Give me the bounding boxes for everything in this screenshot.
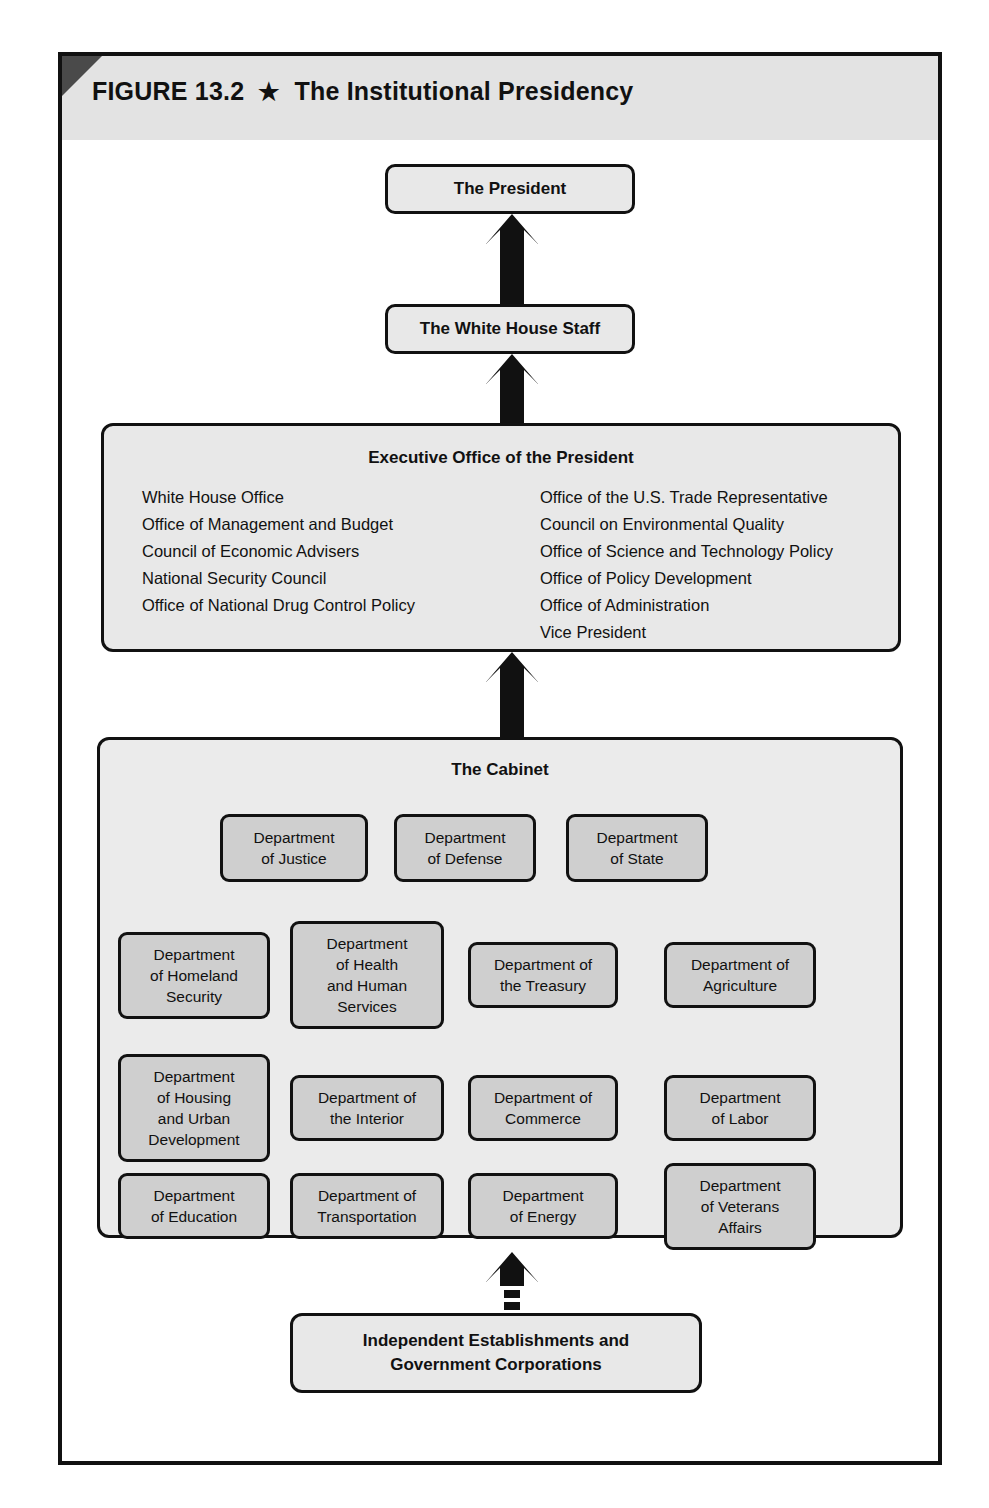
cabinet-department-label-line: of Health [327,954,408,975]
cabinet-department-label-line: Department [327,933,408,954]
figure-title-banner: FIGURE 13.2★The Institutional Presidency [62,56,938,140]
cabinet-department-label-line: Department [503,1185,584,1206]
cabinet-department-box: Departmentof Justice [220,814,368,882]
star-icon: ★ [258,78,280,105]
cabinet-department-label-line: of Housing [148,1087,239,1108]
cabinet-department-label-line: Affairs [700,1217,781,1238]
cabinet-department-box: Department ofAgriculture [664,942,816,1008]
cabinet-department-box: Department ofTransportation [290,1173,444,1239]
panel-the-cabinet: The Cabinet Departmentof JusticeDepartme… [97,737,903,1238]
cabinet-department-label-line: Department of [494,1087,592,1108]
node-independent-establishments: Independent Establishments and Governmen… [290,1313,702,1393]
cabinet-department-label-line: of Labor [700,1108,781,1129]
cabinet-department-label-line: of Education [151,1206,237,1227]
arrow-cabinet-to-eop [486,652,538,738]
cabinet-department-label-line: Transportation [317,1206,416,1227]
cabinet-department-label-line: Department of [317,1185,416,1206]
eop-item: White House Office [142,484,415,511]
cabinet-department-label-line: Department [148,1066,239,1087]
cabinet-department-box: Departmentof Labor [664,1075,816,1141]
eop-item: Council on Environmental Quality [540,511,833,538]
cabinet-department-label-line: the Treasury [494,975,592,996]
cabinet-department-box: Department ofthe Interior [290,1075,444,1141]
figure-title-text: The Institutional Presidency [294,77,633,105]
cabinet-department-box: Departmentof Education [118,1173,270,1239]
cabinet-department-label-line: Department [425,827,506,848]
cabinet-department-label-line: Department [254,827,335,848]
eop-item: Office of Management and Budget [142,511,415,538]
eop-item: Office of Science and Technology Policy [540,538,833,565]
node-independent-line-1: Independent Establishments and [363,1329,629,1353]
eop-item: Vice President [540,619,833,646]
arrow-white-house-staff-to-president [486,214,538,304]
cabinet-department-box: Departmentof Housingand UrbanDevelopment [118,1054,270,1162]
arrow-eop-to-white-house-staff [486,354,538,424]
cabinet-department-box: Department ofCommerce [468,1075,618,1141]
eop-item: Office of Administration [540,592,833,619]
cabinet-department-box: Departmentof VeteransAffairs [664,1163,816,1250]
figure-number: FIGURE 13.2 [92,77,244,105]
cabinet-department-label-line: of Justice [254,848,335,869]
cabinet-title: The Cabinet [100,760,900,780]
node-white-house-staff-label: The White House Staff [420,319,600,339]
eop-item: Office of the U.S. Trade Representative [540,484,833,511]
arrow-independent-to-cabinet [486,1252,538,1314]
cabinet-department-label-line: Services [327,996,408,1017]
cabinet-department-label-line: of Energy [503,1206,584,1227]
eop-right-column: Office of the U.S. Trade Representative … [540,484,833,646]
cabinet-department-label-line: of Veterans [700,1196,781,1217]
eop-item: Council of Economic Advisers [142,538,415,565]
cabinet-department-label-line: and Human [327,975,408,996]
cabinet-department-box: Departmentof State [566,814,708,882]
cabinet-department-label-line: and Urban [148,1108,239,1129]
cabinet-department-label-line: Department [150,944,238,965]
cabinet-department-label-line: Department [597,827,678,848]
figure-frame: FIGURE 13.2★The Institutional Presidency… [58,52,942,1465]
cabinet-department-label-line: Department of [691,954,789,975]
eop-left-column: White House Office Office of Management … [142,484,415,619]
node-president-label: The President [454,179,566,199]
cabinet-department-label-line: Department of [318,1087,416,1108]
cabinet-department-label-line: Security [150,986,238,1007]
cabinet-department-box: Departmentof Healthand HumanServices [290,921,444,1029]
cabinet-department-box: Department ofthe Treasury [468,942,618,1008]
eop-title: Executive Office of the President [104,448,898,468]
eop-item: Office of National Drug Control Policy [142,592,415,619]
figure-title: FIGURE 13.2★The Institutional Presidency [92,77,633,106]
cabinet-department-label-line: Agriculture [691,975,789,996]
cabinet-department-box: Departmentof HomelandSecurity [118,932,270,1019]
eop-item: Office of Policy Development [540,565,833,592]
cabinet-department-label-line: of Homeland [150,965,238,986]
panel-executive-office-of-the-president: Executive Office of the President White … [101,423,901,652]
cabinet-department-label-line: Department [151,1185,237,1206]
cabinet-department-label-line: of Defense [425,848,506,869]
cabinet-department-label-line: Department of [494,954,592,975]
node-independent-line-2: Government Corporations [363,1353,629,1377]
cabinet-department-box: Departmentof Defense [394,814,536,882]
cabinet-department-label-line: Department [700,1087,781,1108]
node-president: The President [385,164,635,214]
cabinet-department-box: Departmentof Energy [468,1173,618,1239]
cabinet-department-label-line: Commerce [494,1108,592,1129]
eop-item: National Security Council [142,565,415,592]
node-white-house-staff: The White House Staff [385,304,635,354]
cabinet-department-label-line: the Interior [318,1108,416,1129]
cabinet-department-label-line: Department [700,1175,781,1196]
cabinet-department-label-line: Development [148,1129,239,1150]
cabinet-department-label-line: of State [597,848,678,869]
